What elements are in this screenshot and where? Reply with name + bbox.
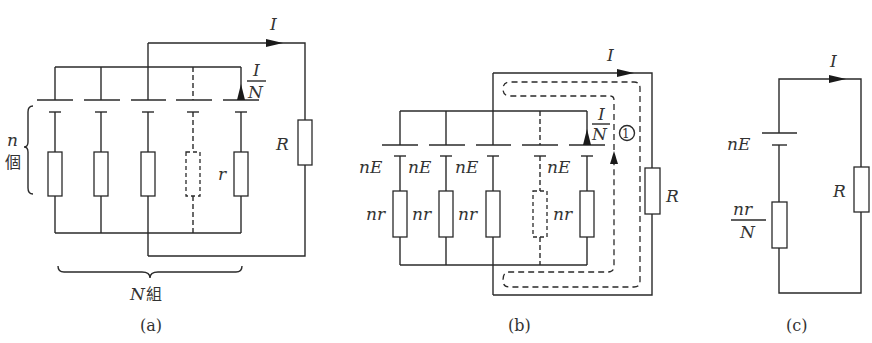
label-equiv-den: N [739,222,756,242]
label-n: n [7,130,18,150]
branch-current-arrow-icon [237,84,245,100]
label-nE: nE [359,157,383,177]
resistor-r [48,152,62,196]
loop-marker: 1 [622,127,630,141]
resistor-r [94,152,108,196]
label-R: R [275,134,289,154]
label-ko: 個 [5,153,21,172]
output-wire [779,79,861,167]
label-nr: nr [366,204,386,224]
panel-a: I I N r R n 個 N 組 (a) [5,14,312,335]
output-wire [148,43,305,120]
label-nr: nr [412,204,432,224]
label-I: I [269,14,277,34]
resistor-nr-dashed [533,191,547,237]
label-nr: nr [458,204,478,224]
label-equiv-num: nr [733,199,753,219]
load-resistor-R [854,167,869,212]
brace-left [24,106,33,194]
output-wire [493,73,652,168]
loop-arrow-icon [610,151,618,164]
panel-c: I nE nr N R (c) [727,51,869,335]
label-nE: nE [727,134,751,154]
brace-bottom [58,266,242,278]
current-arrow-icon [617,69,634,77]
caption-a: (a) [140,316,162,335]
return-wire [493,214,652,295]
return-wire [148,165,305,256]
resistor-r-dashed [186,152,200,196]
panel-b: I I N 1 nE nE nE nE nr nr nr nr R (b) [359,45,679,335]
caption-b: (b) [508,316,531,335]
battery-row [382,145,605,156]
load-resistor-R [645,168,660,214]
label-nE: nE [547,157,571,177]
equiv-resistor [772,202,787,248]
battery-row [37,100,259,112]
label-branch-num: I [252,60,260,80]
current-arrow-icon [829,75,846,83]
label-N: N [129,284,146,304]
branch-current-arrow-icon [583,129,591,145]
label-kumi: 組 [146,285,162,304]
kirchhoff-loop [503,82,640,287]
caption-c: (c) [786,316,807,335]
label-branch-den: N [591,124,608,144]
resistor-nr [393,191,407,237]
label-I: I [829,51,837,71]
resistor-r [234,152,248,196]
resistor-nr [486,191,500,237]
return-wire [779,212,861,293]
label-nE: nE [455,157,479,177]
resistor-r [141,152,155,196]
label-R: R [832,181,846,201]
label-branch-den: N [247,82,264,102]
current-arrow-icon [266,39,283,47]
label-I: I [606,45,614,65]
label-R: R [665,186,679,206]
resistor-nr [439,191,453,237]
label-nr: nr [553,204,573,224]
resistor-nr [580,191,594,237]
label-nE: nE [408,157,432,177]
load-resistor-R [298,120,312,165]
circuit-figure: I I N r R n 個 N 組 (a) [0,0,872,343]
label-r: r [218,164,227,184]
label-branch-num: I [597,104,605,124]
